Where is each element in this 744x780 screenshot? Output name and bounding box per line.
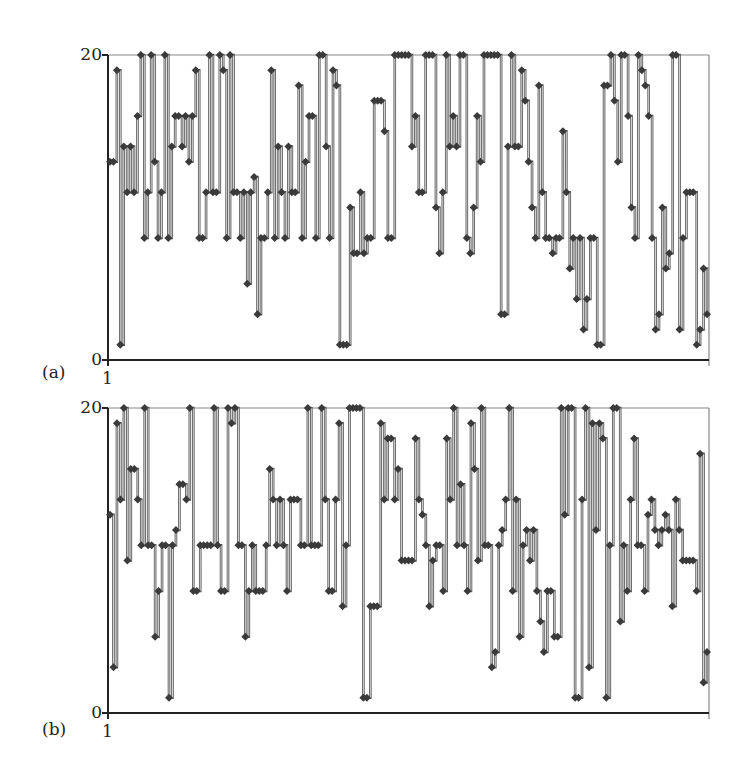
y-tick-min-a: 0 <box>62 349 102 369</box>
panel-label-b: (b) <box>42 719 66 739</box>
chart-panel-a: 20 0 1 (a) <box>0 0 744 390</box>
y-tick-max-b: 20 <box>62 397 102 417</box>
y-tick-min-b: 0 <box>62 702 102 722</box>
x-tick-first-a: 1 <box>102 368 113 388</box>
chart-panel-b: 20 0 1 (b) <box>0 390 744 780</box>
step-chart-a <box>0 0 744 390</box>
panel-label-a: (a) <box>42 362 65 382</box>
y-tick-max-a: 20 <box>62 44 102 64</box>
x-tick-first-b: 1 <box>102 721 113 741</box>
